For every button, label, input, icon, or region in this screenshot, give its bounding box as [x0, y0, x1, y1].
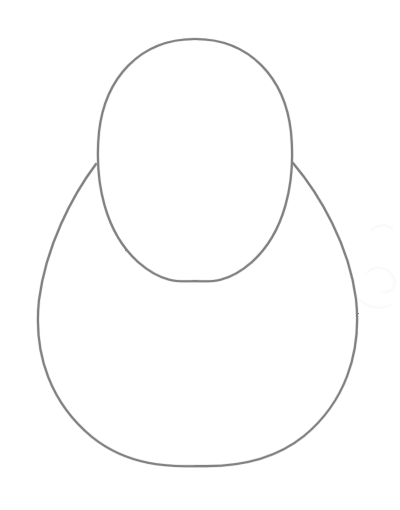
sketch-canvas: Two overlapping pencil construction shap… [0, 0, 400, 510]
sketch-drawing [0, 0, 400, 510]
paper-background [0, 0, 400, 510]
